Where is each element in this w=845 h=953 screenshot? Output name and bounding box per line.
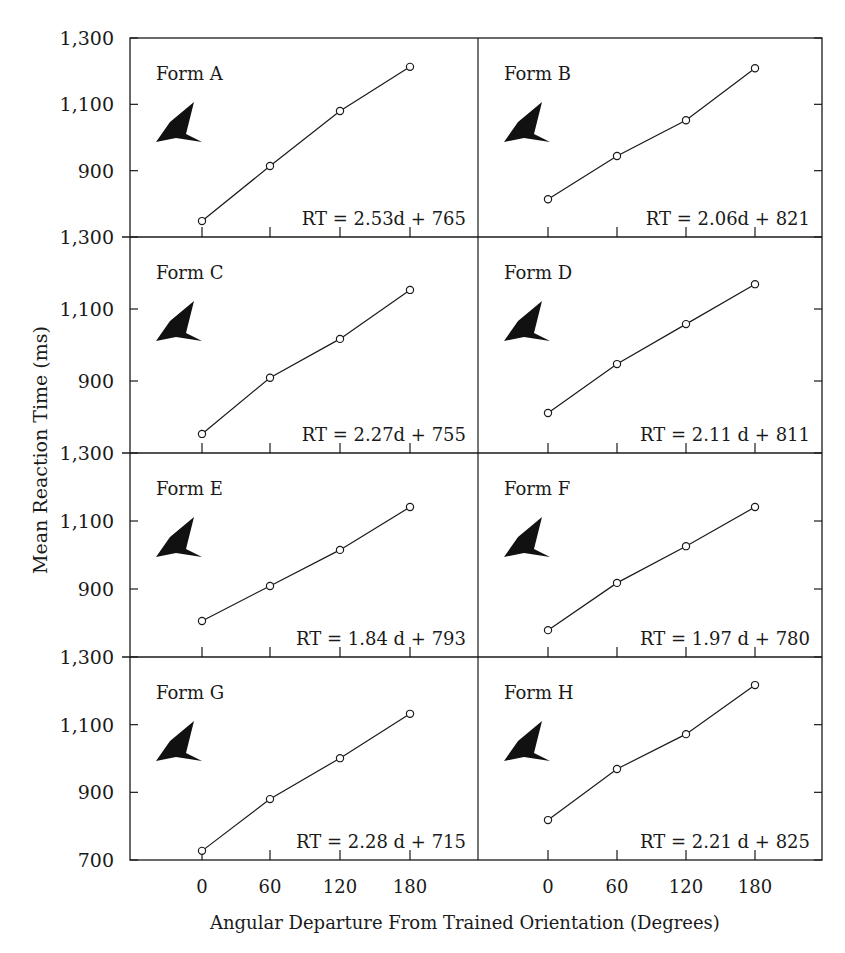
- y-tick-label: 1,100: [60, 510, 114, 532]
- data-point: [544, 627, 551, 634]
- y-tick-label: 900: [78, 160, 114, 182]
- panel-title: Form G: [156, 682, 224, 703]
- data-point: [336, 546, 343, 553]
- data-point: [751, 681, 758, 688]
- data-point: [751, 65, 758, 72]
- x-tick-label: 180: [738, 876, 772, 897]
- y-tick-label: 1,300: [60, 442, 114, 464]
- data-point: [336, 107, 343, 114]
- data-point: [198, 847, 205, 854]
- data-point: [406, 63, 413, 70]
- y-tick-label: 1,300: [60, 226, 114, 248]
- stimulus-shape-icon: [504, 721, 550, 761]
- series-line: [548, 685, 755, 820]
- y-tick-label: 700: [78, 849, 114, 871]
- series-line: [548, 68, 755, 199]
- data-point: [751, 281, 758, 288]
- stimulus-shape-icon: [156, 517, 202, 557]
- y-tick-label: 1,100: [60, 714, 114, 736]
- regression-equation: RT = 2.21 d + 825: [640, 831, 810, 852]
- panel-title: Form A: [156, 63, 224, 84]
- x-tick-label: 0: [542, 876, 553, 897]
- stimulus-shape-icon: [156, 301, 202, 341]
- y-tick-label: 1,300: [60, 646, 114, 668]
- regression-equation: RT = 1.97 d + 780: [640, 628, 810, 649]
- x-tick-label: 180: [393, 876, 427, 897]
- y-tick-label: 900: [78, 578, 114, 600]
- data-point: [613, 579, 620, 586]
- panel-title: Form F: [504, 478, 570, 499]
- regression-equation: RT = 2.27d + 755: [302, 424, 466, 445]
- data-point: [336, 755, 343, 762]
- regression-equation: RT = 2.06d + 821: [646, 208, 810, 229]
- data-point: [613, 765, 620, 772]
- data-point: [751, 503, 758, 510]
- data-point: [544, 409, 551, 416]
- panel-title: Form H: [504, 682, 573, 703]
- x-tick-label: 120: [323, 876, 357, 897]
- stimulus-shape-icon: [156, 102, 202, 142]
- x-tick-label: 120: [669, 876, 703, 897]
- data-point: [198, 217, 205, 224]
- series-line: [202, 507, 410, 621]
- y-tick-label: 1,300: [60, 27, 114, 49]
- y-tick-label: 900: [78, 370, 114, 392]
- panel-title: Form C: [156, 262, 224, 283]
- data-point: [266, 796, 273, 803]
- x-tick-label: 60: [606, 876, 629, 897]
- regression-equation: RT = 2.53d + 765: [302, 208, 466, 229]
- y-tick-label: 900: [78, 781, 114, 803]
- data-point: [613, 360, 620, 367]
- regression-equation: RT = 1.84 d + 793: [296, 628, 466, 649]
- panel-title: Form B: [504, 63, 571, 84]
- stimulus-shape-icon: [504, 517, 550, 557]
- data-point: [266, 162, 273, 169]
- y-tick-label: 1,100: [60, 298, 114, 320]
- regression-equation: RT = 2.11 d + 811: [640, 424, 810, 445]
- series-line: [202, 67, 410, 221]
- data-point: [682, 321, 689, 328]
- data-point: [336, 335, 343, 342]
- data-point: [682, 543, 689, 550]
- panel-title: Form E: [156, 478, 223, 499]
- series-line: [202, 290, 410, 434]
- series-line: [548, 284, 755, 413]
- plot-frame: [130, 38, 822, 860]
- data-point: [406, 503, 413, 510]
- data-point: [682, 731, 689, 738]
- x-tick-label: 60: [259, 876, 282, 897]
- data-point: [406, 286, 413, 293]
- data-point: [544, 196, 551, 203]
- data-point: [406, 710, 413, 717]
- stimulus-shape-icon: [156, 721, 202, 761]
- data-point: [266, 582, 273, 589]
- data-point: [682, 117, 689, 124]
- data-point: [266, 374, 273, 381]
- regression-equation: RT = 2.28 d + 715: [296, 831, 466, 852]
- stimulus-shape-icon: [504, 102, 550, 142]
- stimulus-shape-icon: [504, 301, 550, 341]
- data-point: [613, 152, 620, 159]
- data-point: [198, 617, 205, 624]
- x-axis-label: Angular Departure From Trained Orientati…: [210, 912, 720, 933]
- series-line: [548, 507, 755, 630]
- data-point: [198, 430, 205, 437]
- y-tick-label: 1,100: [60, 93, 114, 115]
- data-point: [544, 816, 551, 823]
- x-tick-label: 0: [196, 876, 207, 897]
- y-axis-label: Mean Reaction Time (ms): [29, 326, 51, 574]
- panel-title: Form D: [504, 262, 572, 283]
- chart-canvas: 9001,1001,3009001,1001,3009001,1001,3007…: [0, 0, 845, 953]
